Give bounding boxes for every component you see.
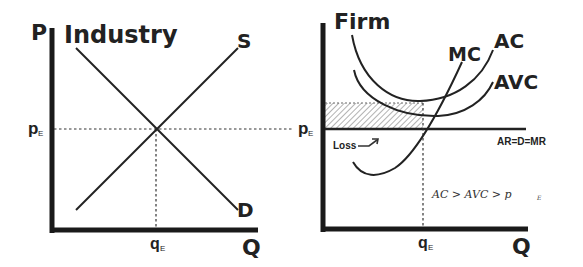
mc-label: MC xyxy=(448,43,481,65)
industry-title: Industry xyxy=(64,21,178,49)
loss-area xyxy=(325,103,423,129)
firm-quantity-label: q E xyxy=(418,234,433,252)
svg-text:E: E xyxy=(536,194,542,201)
industry-price-label: p E xyxy=(28,119,43,138)
svg-text:E: E xyxy=(308,129,313,138)
firm-price-label: p E xyxy=(298,119,313,138)
ac-label: AC xyxy=(494,29,524,53)
industry-y-axis-label: P xyxy=(31,20,47,45)
ar-d-mr-label: AR=D=MR xyxy=(497,136,547,147)
loss-label: Loss xyxy=(333,140,357,151)
cost-inequality: AC > AVC > p E xyxy=(431,188,542,201)
svg-text:E: E xyxy=(428,243,433,252)
demand-label: D xyxy=(237,198,254,222)
svg-text:q: q xyxy=(150,235,160,252)
firm-panel: Firm MC AC AVC AR=D=MR Loss p E q E Q AC… xyxy=(298,9,547,259)
svg-text:E: E xyxy=(38,129,43,138)
svg-text:AC > AVC > p: AC > AVC > p xyxy=(431,188,512,201)
svg-text:q: q xyxy=(418,234,428,251)
svg-text:E: E xyxy=(160,244,165,253)
avc-label: AVC xyxy=(494,70,538,94)
firm-x-axis-label: Q xyxy=(512,234,531,259)
supply-label: S xyxy=(237,29,251,53)
economics-diagram: P Industry S D Q p E q E Firm M xyxy=(0,0,583,267)
industry-panel: P Industry S D Q p E q E xyxy=(28,20,292,260)
industry-quantity-label: q E xyxy=(150,235,165,253)
industry-x-axis-label: Q xyxy=(242,235,261,260)
loss-arrow-icon xyxy=(358,139,378,146)
firm-title: Firm xyxy=(334,9,390,34)
svg-text:p: p xyxy=(298,119,308,138)
svg-text:p: p xyxy=(28,119,38,138)
